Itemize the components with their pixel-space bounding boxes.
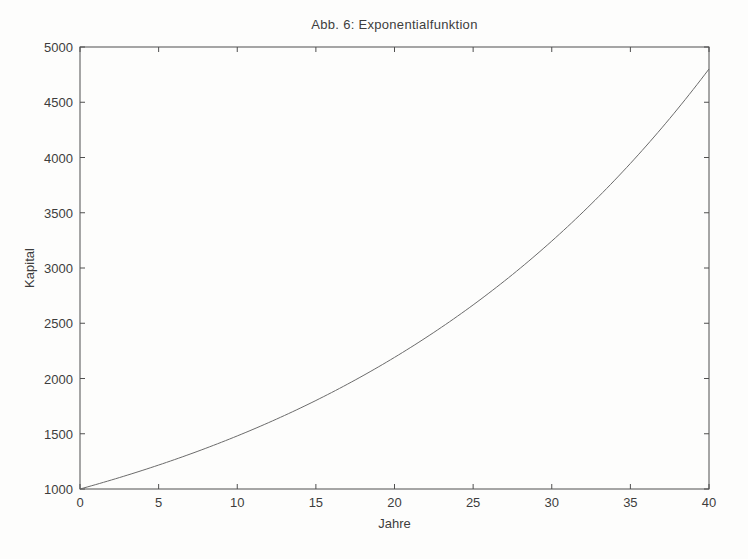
x-tick-label: 15 <box>309 495 323 510</box>
plot-area <box>0 0 748 559</box>
y-axis-label: Kapital <box>22 248 37 288</box>
y-tick-label: 2000 <box>44 371 73 386</box>
x-tick-label: 20 <box>387 495 401 510</box>
data-curve <box>80 69 709 489</box>
y-tick-label: 5000 <box>44 40 73 55</box>
y-tick-label: 4500 <box>44 95 73 110</box>
x-tick-label: 5 <box>155 495 162 510</box>
y-tick-label: 3500 <box>44 205 73 220</box>
chart-figure: Abb. 6: Exponentialfunktion 051015202530… <box>0 0 748 559</box>
x-tick-label: 25 <box>466 495 480 510</box>
y-tick-label: 4000 <box>44 150 73 165</box>
x-tick-label: 40 <box>702 495 716 510</box>
x-tick-label: 0 <box>76 495 83 510</box>
y-tick-label: 1500 <box>44 426 73 441</box>
y-tick-label: 3000 <box>44 261 73 276</box>
x-tick-label: 10 <box>230 495 244 510</box>
x-axis-label: Jahre <box>80 516 709 531</box>
plot-frame <box>80 47 709 489</box>
y-tick-label: 1000 <box>44 482 73 497</box>
y-tick-label: 2500 <box>44 316 73 331</box>
x-tick-label: 30 <box>545 495 559 510</box>
x-tick-label: 35 <box>623 495 637 510</box>
